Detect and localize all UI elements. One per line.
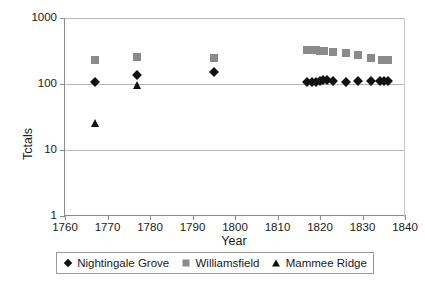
data-point-square (329, 48, 337, 56)
data-point-square (91, 56, 99, 64)
data-point-square (320, 47, 328, 55)
y-tick-label: 10 (44, 144, 57, 156)
gridline-y (65, 18, 404, 19)
legend-entry[interactable]: Mammee Ridge (272, 257, 367, 269)
y-tick-mark (60, 18, 65, 19)
y-tick-mark (60, 84, 65, 85)
data-point-diamond (209, 67, 219, 77)
x-tick-label: 1790 (180, 222, 206, 234)
gridline-y (65, 84, 404, 85)
data-point-triangle (91, 119, 99, 127)
x-tick-mark (278, 215, 279, 220)
data-point-square (210, 54, 218, 62)
legend-label: Nightingale Grove (77, 257, 169, 269)
data-point-square (367, 54, 375, 62)
x-axis-title: Year (64, 234, 404, 248)
square-marker-icon (181, 259, 190, 268)
chart-legend: Nightingale GroveWilliamsfieldMammee Rid… (56, 252, 374, 274)
y-tick-mark (60, 150, 65, 151)
y-tick-label: 1000 (31, 12, 57, 24)
legend-entry[interactable]: Williamsfield (181, 257, 259, 269)
diamond-marker-icon (63, 259, 72, 268)
data-point-square (354, 51, 362, 59)
data-point-square (133, 53, 141, 61)
x-tick-label: 1820 (307, 222, 333, 234)
x-tick-mark (193, 215, 194, 220)
x-tick-label: 1830 (350, 222, 376, 234)
data-point-diamond (90, 77, 100, 87)
data-point-square (384, 56, 392, 64)
x-tick-mark (405, 215, 406, 220)
data-point-square (342, 49, 350, 57)
y-tick-label: 100 (38, 78, 57, 90)
data-point-triangle (133, 81, 141, 89)
x-tick-label: 1780 (137, 222, 163, 234)
plot-area: 1101001000 17601770178017901800181018201… (64, 18, 404, 216)
legend-entry[interactable]: Nightingale Grove (63, 257, 169, 269)
x-tick-mark (320, 215, 321, 220)
y-axis-title: Tctals (21, 128, 35, 160)
x-tick-mark (235, 215, 236, 220)
plot-border-right (404, 18, 405, 217)
x-tick-mark (150, 215, 151, 220)
x-tick-mark (108, 215, 109, 220)
x-tick-label: 1760 (52, 222, 78, 234)
data-point-diamond (341, 77, 351, 87)
chart-figure: Tctals 1101001000 1760177017801790180018… (0, 0, 425, 287)
x-tick-label: 1800 (222, 222, 248, 234)
triangle-marker-icon (272, 259, 281, 268)
legend-label: Mammee Ridge (286, 257, 367, 269)
x-tick-mark (363, 215, 364, 220)
x-tick-label: 1810 (265, 222, 291, 234)
data-point-diamond (132, 70, 142, 80)
legend-label: Williamsfield (195, 257, 259, 269)
x-tick-mark (65, 215, 66, 220)
gridline-y (65, 150, 404, 151)
x-tick-label: 1840 (392, 222, 418, 234)
x-tick-label: 1770 (95, 222, 121, 234)
